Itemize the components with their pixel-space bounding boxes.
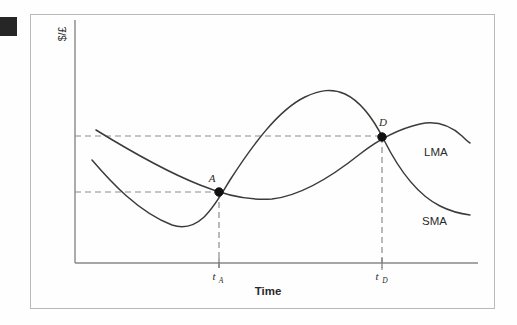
series-curve-sma bbox=[92, 90, 470, 226]
tick-label-tD-sub: D bbox=[381, 276, 388, 285]
label-series-sma: SMA bbox=[422, 215, 447, 227]
label-point-A: A bbox=[208, 172, 216, 184]
moving-average-crossover-chart: A D LMA SMA t A t D Time $/£ bbox=[0, 0, 517, 325]
marker-point-A[interactable] bbox=[215, 188, 223, 196]
x-axis-title: Time bbox=[255, 285, 282, 297]
y-axis-title: $/£ bbox=[56, 27, 68, 42]
chart-axes bbox=[75, 20, 478, 263]
label-series-lma: LMA bbox=[424, 146, 448, 158]
tick-label-tA-base: t bbox=[212, 270, 216, 282]
tick-label-tA: t A bbox=[212, 270, 223, 285]
tick-label-tD: t D bbox=[375, 270, 388, 285]
figure-root: A D LMA SMA t A t D Time $/£ bbox=[0, 0, 517, 325]
marker-point-D[interactable] bbox=[378, 133, 386, 141]
tick-label-tA-sub: A bbox=[218, 276, 224, 285]
label-point-D: D bbox=[378, 116, 387, 128]
series-curve-lma bbox=[96, 123, 470, 199]
tick-label-tD-base: t bbox=[375, 270, 379, 282]
guide-lines bbox=[75, 136, 382, 270]
